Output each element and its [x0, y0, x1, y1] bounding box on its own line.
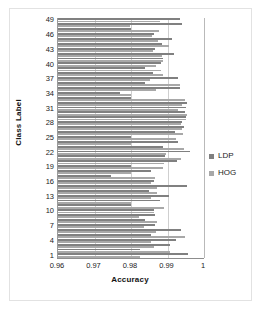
bar-hog-class-21 — [58, 158, 181, 160]
bar-hog-class-47 — [58, 30, 159, 32]
x-axis-tick-labels: 0.960.970.980.991 — [57, 261, 203, 273]
y-tick-label: 16 — [28, 178, 54, 186]
bar-hog-class-23 — [58, 148, 184, 150]
bar-hog-class-29 — [58, 119, 186, 121]
bar-hog-class-12 — [58, 202, 131, 204]
bar-hog-class-9 — [58, 216, 139, 218]
bar-hog-class-46 — [58, 35, 152, 37]
bar-hog-class-33 — [58, 99, 185, 101]
bar-hog-class-32 — [58, 104, 182, 106]
y-tick-label: 22 — [28, 149, 54, 157]
bar-hog-class-14 — [58, 192, 157, 194]
bar-hog-class-6 — [58, 231, 156, 233]
bar-hog-class-20 — [58, 163, 164, 165]
bar-hog-class-10 — [58, 212, 154, 214]
bar-hog-class-18 — [58, 172, 131, 174]
bar-hog-class-26 — [58, 133, 183, 135]
x-tick-label: 0.98 — [110, 261, 150, 270]
legend-item-ldp[interactable]: LDP — [209, 152, 253, 160]
bar-hog-class-24 — [58, 143, 131, 145]
bar-hog-class-3 — [58, 246, 154, 248]
x-tick-label: 0.99 — [147, 261, 187, 270]
y-tick-label: 13 — [28, 193, 54, 201]
y-tick-label: 37 — [28, 75, 54, 83]
y-tick-label: 40 — [28, 61, 54, 69]
bar-hog-class-38 — [58, 74, 163, 76]
plot-area — [57, 18, 205, 258]
y-tick-label: 46 — [28, 31, 54, 39]
bar-hog-class-4 — [58, 241, 151, 243]
y-tick-label: 10 — [28, 207, 54, 215]
x-axis-title: Accuracy — [57, 275, 203, 284]
bar-series-layer — [58, 18, 204, 258]
legend-label-ldp: LDP — [218, 152, 234, 160]
bar-hog-class-42 — [58, 55, 162, 57]
bar-hog-class-45 — [58, 40, 158, 42]
y-axis-tick-labels: 4946434037343128252219161310741 — [28, 18, 54, 258]
bar-hog-class-41 — [58, 60, 163, 62]
bar-hog-class-49 — [58, 21, 160, 23]
chart-figure: Class Label 4946434037343128252219161310… — [0, 0, 266, 322]
bar-hog-class-15 — [58, 187, 157, 189]
bar-hog-class-34 — [58, 94, 131, 96]
bar-hog-class-16 — [58, 182, 151, 184]
y-tick-label: 43 — [28, 46, 54, 54]
bar-hog-class-7 — [58, 226, 144, 228]
y-tick-label: 4 — [28, 237, 54, 245]
bar-hog-class-19 — [58, 167, 163, 169]
x-axis-line — [57, 258, 204, 259]
bar-hog-class-31 — [58, 109, 178, 111]
x-tick-label: 1 — [183, 261, 223, 270]
bar-hog-class-27 — [58, 128, 182, 130]
bar-hog-class-44 — [58, 45, 169, 47]
bar-hog-class-11 — [58, 207, 164, 209]
y-tick-label: 31 — [28, 105, 54, 113]
legend-swatch-ldp — [209, 154, 214, 159]
bar-hog-class-48 — [58, 25, 130, 27]
bar-hog-class-5 — [58, 236, 185, 238]
y-tick-label: 25 — [28, 134, 54, 142]
bar-hog-class-39 — [58, 70, 161, 72]
bar-hog-class-43 — [58, 50, 153, 52]
y-tick-label: 7 — [28, 222, 54, 230]
bar-hog-class-22 — [58, 153, 166, 155]
legend-swatch-hog — [209, 171, 214, 176]
bar-hog-class-40 — [58, 65, 156, 67]
y-tick-label: 49 — [28, 16, 54, 24]
bar-hog-class-25 — [58, 138, 176, 140]
x-tick-label: 0.96 — [37, 261, 77, 270]
bar-hog-class-28 — [58, 123, 181, 125]
y-axis-title: Class Label — [14, 88, 23, 158]
bar-hog-class-17 — [58, 177, 155, 179]
y-tick-label: 34 — [28, 90, 54, 98]
bar-hog-class-37 — [58, 79, 150, 81]
bar-hog-class-2 — [58, 251, 170, 253]
chart-legend: LDP HOG — [209, 152, 253, 186]
bar-hog-class-36 — [58, 84, 180, 86]
bar-hog-class-35 — [58, 89, 156, 91]
legend-item-hog[interactable]: HOG — [209, 169, 253, 177]
y-tick-label: 19 — [28, 163, 54, 171]
y-tick-label: 1 — [28, 252, 54, 260]
bar-hog-class-8 — [58, 221, 157, 223]
bar-hog-class-30 — [58, 114, 187, 116]
x-tick-label: 0.97 — [74, 261, 114, 270]
legend-label-hog: HOG — [218, 169, 236, 177]
bar-hog-class-13 — [58, 197, 151, 199]
y-tick-label: 28 — [28, 119, 54, 127]
